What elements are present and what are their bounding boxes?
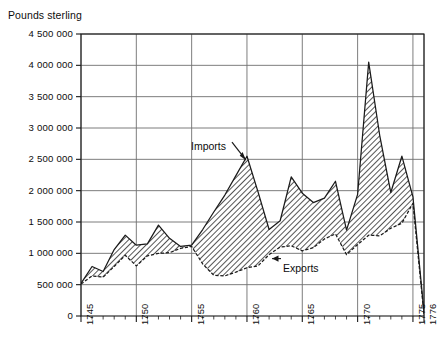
y-tick-label: 3 500 000 — [29, 91, 73, 102]
y-tick-label: 2 000 000 — [29, 185, 73, 196]
exports-series-label: Exports — [283, 262, 319, 274]
y-tick-label: 500 000 — [37, 279, 73, 290]
x-tick-label: 1745 — [85, 304, 95, 325]
imports-series-label: Imports — [191, 140, 226, 152]
y-tick-label: 1 500 000 — [29, 216, 73, 227]
exports-arrow-head — [272, 255, 278, 261]
y-tick-label: 4 500 000 — [29, 28, 73, 39]
x-tick-label: 1760 — [251, 304, 261, 325]
trade-area-chart — [0, 0, 439, 354]
y-tick-label: 2 500 000 — [29, 153, 73, 164]
imports-exports-band — [81, 62, 424, 315]
x-tick-label: 1765 — [306, 304, 316, 325]
y-tick-label: 1 000 000 — [29, 247, 73, 258]
x-tick-label: 1776 — [428, 304, 438, 325]
x-tick-label: 1755 — [196, 304, 206, 325]
chart-container: Pounds sterling 0500 0001 000 0001 500 0… — [0, 0, 439, 354]
x-tick-label: 1750 — [140, 304, 150, 325]
x-tick-label: 1775 — [417, 304, 427, 325]
x-tick-label: 1770 — [362, 304, 372, 325]
y-tick-label: 0 — [67, 310, 73, 321]
y-tick-label: 3 000 000 — [29, 122, 73, 133]
y-tick-label: 4 000 000 — [29, 59, 73, 70]
hatched-area — [81, 62, 424, 315]
